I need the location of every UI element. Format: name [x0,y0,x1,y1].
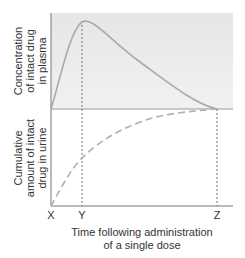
x-tick-y: Y [78,209,86,221]
urine-y-label-line-3: drug in urine [36,127,48,188]
x-label-line-2: of a single dose [103,239,180,251]
x-tick-x: X [47,209,55,221]
plasma-y-label-line-1: Concentration [12,27,24,96]
urine-cumulative-curve [51,109,217,206]
x-label-line-1: Time following administration [71,226,212,238]
plasma-y-label: Concentration of intact drug in plasma [12,27,48,96]
plasma-panel-background [51,13,233,109]
plasma-y-label-line-3: in plasma [36,37,48,85]
x-tick-z: Z [214,209,221,221]
pharmacokinetics-chart: Concentration of intact drug in plasma C… [0,0,245,258]
urine-y-label-line-1: Cumulative [12,130,24,185]
urine-y-label-line-2: amount of intact [24,119,36,197]
plasma-y-label-line-2: of intact drug [24,29,36,93]
urine-y-label: Cumulative amount of intact drug in urin… [12,119,48,197]
